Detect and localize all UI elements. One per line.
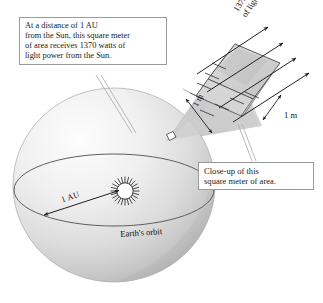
distance-callout-line-2: from the Sun, this square meter <box>25 31 162 41</box>
closeup-callout: Close-up of this square meter of area. <box>198 162 314 190</box>
distance-callout-line-4: light power from the Sun. <box>25 51 162 61</box>
figure-canvas: At a distance of 1 AU from the Sun, this… <box>0 0 323 303</box>
width-dimension <box>263 95 281 120</box>
distance-callout-line-3: of area receives 1370 watts of <box>25 41 162 51</box>
closeup-callout-line-1: Close-up of this <box>204 166 309 176</box>
sun-glyph-group <box>111 177 140 206</box>
distance-callout: At a distance of 1 AU from the Sun, this… <box>19 17 167 65</box>
closeup-callout-line-2: square meter of area. <box>204 176 309 186</box>
distance-callout-line-1: At a distance of 1 AU <box>25 21 162 31</box>
width-dimension-label: 1 m <box>284 110 297 120</box>
